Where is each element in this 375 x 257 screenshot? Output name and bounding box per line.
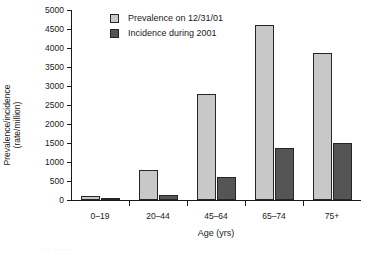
y-axis-tick [67,162,72,163]
y-axis-tick [67,181,72,182]
bar-chart: Prevalence/incidence (rate/million) 0500… [0,0,375,257]
bar [197,94,216,200]
scan-artifact: ·· ··· ·· [44,246,73,253]
y-axis-tick-label: 500 [50,176,64,186]
legend-label: Incidence during 2001 [128,28,217,38]
legend-swatch-icon [110,14,119,23]
y-axis-tick-label: 4500 [45,24,64,34]
x-axis-category-label: 45–64 [204,211,228,221]
y-axis-tick-label: 4000 [45,43,64,53]
y-axis-tick-label: 0 [59,195,64,205]
y-axis-tick [67,143,72,144]
bar [217,177,236,200]
bar [255,25,274,200]
y-axis-tick [67,10,72,11]
y-axis-title-line1: Prevalence/incidence [2,85,12,166]
y-axis-tick-label: 1500 [45,138,64,148]
plot-area: 0500100015002000250030003500400045005000… [71,10,361,201]
y-axis-tick-label: 5000 [45,5,64,15]
y-axis-tick-label: 2500 [45,100,64,110]
y-axis-tick [67,200,72,201]
legend-swatch-icon [110,29,119,38]
x-axis-tick [303,201,304,206]
y-axis-title-line2: (rate/million) [12,102,22,149]
legend-item: Prevalence on 12/31/01 [110,13,223,23]
x-axis-category-label: 0–19 [91,211,110,221]
y-axis-tick [67,124,72,125]
y-axis-tick-label: 3000 [45,81,64,91]
y-axis-tick-label: 1000 [45,157,64,167]
x-axis-category-label: 65–74 [262,211,286,221]
bar [159,195,178,200]
y-axis-title: Prevalence/incidence (rate/million) [0,55,24,195]
legend-item: Incidence during 2001 [110,28,223,38]
y-axis-tick [67,29,72,30]
bar [333,143,352,200]
bar [81,196,100,200]
x-axis-tick [187,201,188,206]
x-axis-category-label: 20–44 [146,211,170,221]
x-axis-tick [129,201,130,206]
y-axis-tick-label: 2000 [45,119,64,129]
x-axis-title: Age (yrs) [71,228,361,238]
y-axis-tick [67,48,72,49]
x-axis-tick [245,201,246,206]
y-axis-tick [67,67,72,68]
x-axis-category-label: 75+ [325,211,339,221]
bar [275,148,294,200]
legend-label: Prevalence on 12/31/01 [128,13,223,23]
y-axis-tick [67,86,72,87]
bar [139,170,158,200]
chart-legend: Prevalence on 12/31/01Incidence during 2… [110,13,223,38]
y-axis-tick [67,105,72,106]
y-axis-tick-label: 3500 [45,62,64,72]
bar [101,198,120,200]
bar [313,53,332,200]
x-axis-line [71,200,361,201]
